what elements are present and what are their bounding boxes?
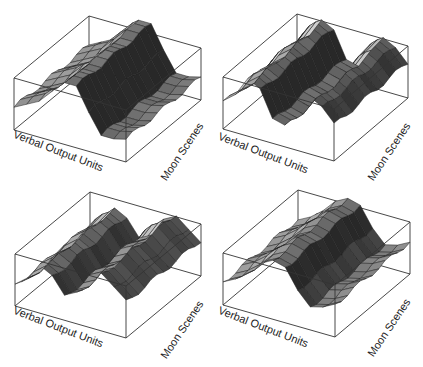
surface [15, 208, 201, 300]
surface [14, 20, 201, 139]
surface [223, 20, 408, 125]
surface-plot-bottom-right: Verbal Output Units Moon Scenes [207, 176, 419, 360]
surface-plot-top-left: Verbal Output Units Moon Scenes [0, 0, 212, 184]
surface [223, 198, 410, 307]
surface-plot-top-right: Verbal Output Units Moon Scenes [207, 0, 419, 184]
plot-canvas [207, 176, 423, 367]
surface-plot-bottom-left: Verbal Output Units Moon Scenes [0, 176, 212, 360]
